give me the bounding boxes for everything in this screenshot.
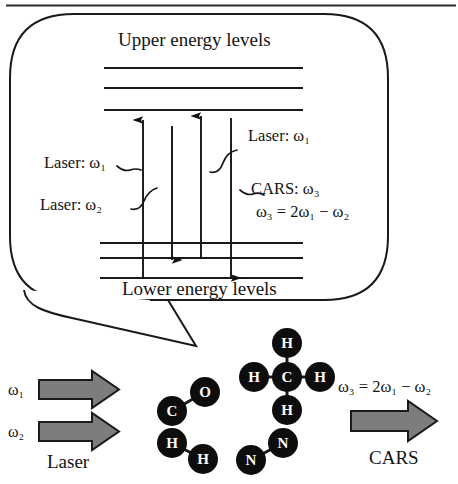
cars-caption: CARS: [369, 448, 419, 467]
annotation-cars-equation-inner: ω₃ = 2ω₁ − ω₂: [256, 204, 349, 221]
annotation-laser-omega1-left: Laser: ω₁: [44, 155, 106, 172]
input-beam-label-omega2: ω₂: [8, 424, 24, 440]
cars-energy-diagram-figure: Upper energy levels Lower energy levels …: [0, 0, 458, 484]
atom-label-ch4-h-right: H: [314, 370, 326, 385]
cars-equation-outer: ω₃ = 2ω₁ − ω₂: [338, 379, 431, 396]
annotation-laser-omega2-left: Laser: ω₂: [40, 197, 102, 214]
cars-beam-arrow: [351, 401, 437, 441]
atom-label-co-o: O: [199, 385, 211, 400]
atom-label-co-c: C: [167, 404, 178, 419]
upper-energy-levels-heading: Upper energy levels: [118, 30, 271, 49]
annotation-laser-omega1-right: Laser: ω₁: [248, 128, 310, 145]
atom-label-ch4-h-bottom: H: [281, 403, 293, 418]
atom-label-h2-h1: H: [166, 436, 178, 451]
atom-label-n2-n1: N: [278, 436, 289, 451]
atom-label-ch4-c: C: [282, 370, 293, 385]
atom-label-ch4-h-left: H: [248, 370, 260, 385]
atom-label-h2-h2: H: [197, 452, 209, 467]
laser-beam-arrow-omega2: [39, 413, 119, 450]
figure-vector-layer: [0, 0, 458, 484]
lower-energy-levels-caption: Lower energy levels: [122, 279, 277, 298]
atom-label-n2-n2: N: [246, 453, 257, 468]
input-beam-label-omega1: ω₁: [8, 382, 24, 398]
laser-caption: Laser: [47, 452, 89, 471]
annotation-cars-omega3: CARS: ω₃: [251, 181, 319, 198]
atom-label-ch4-h-top: H: [281, 336, 293, 351]
laser-beam-arrow-omega1: [39, 371, 119, 408]
